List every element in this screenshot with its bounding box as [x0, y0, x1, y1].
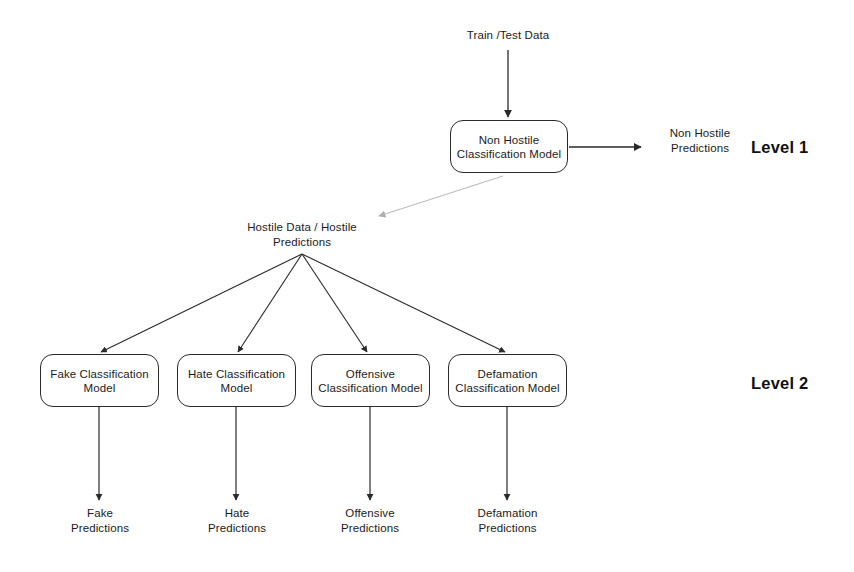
fake-classification-model-box[interactable]: Fake Classification Model — [40, 354, 159, 407]
edge-hostile-to-fake-model — [101, 254, 302, 352]
level-2-label: Level 2 — [751, 374, 808, 393]
fake-predictions-label: Fake Predictions — [44, 506, 156, 535]
hate-classification-model-box[interactable]: Hate Classification Model — [177, 354, 296, 407]
non-hostile-predictions-label: Non Hostile Predictions — [645, 126, 755, 155]
offensive-predictions-label: Offensive Predictions — [314, 506, 426, 535]
edge-hostile-to-defamation-model — [302, 254, 505, 352]
edge-hostile-to-hate-model — [238, 254, 302, 352]
defamation-classification-model-label: Defamation Classification Model — [452, 367, 562, 395]
edge-non-hostile-model-to-hostile-data — [379, 176, 503, 216]
level-1-label: Level 1 — [751, 138, 808, 157]
offensive-classification-model-box[interactable]: Offensive Classification Model — [311, 354, 430, 407]
hate-predictions-label: Hate Predictions — [181, 506, 293, 535]
hostile-data-label: Hostile Data / Hostile Predictions — [217, 220, 387, 249]
non-hostile-classification-model-label: Non Hostile Classification Model — [454, 133, 564, 161]
offensive-classification-model-label: Offensive Classification Model — [315, 367, 425, 395]
defamation-classification-model-box[interactable]: Defamation Classification Model — [448, 354, 567, 407]
fake-classification-model-label: Fake Classification Model — [47, 367, 151, 395]
non-hostile-classification-model-box[interactable]: Non Hostile Classification Model — [450, 120, 568, 173]
diagram-canvas: Train /Test Data Non Hostile Predictions… — [0, 0, 854, 572]
edge-hostile-to-offensive-model — [302, 254, 367, 352]
defamation-predictions-label: Defamation Predictions — [450, 506, 565, 535]
diagram-connectors — [0, 0, 854, 572]
hate-classification-model-label: Hate Classification Model — [185, 367, 288, 395]
input-data-label: Train /Test Data — [438, 28, 578, 43]
